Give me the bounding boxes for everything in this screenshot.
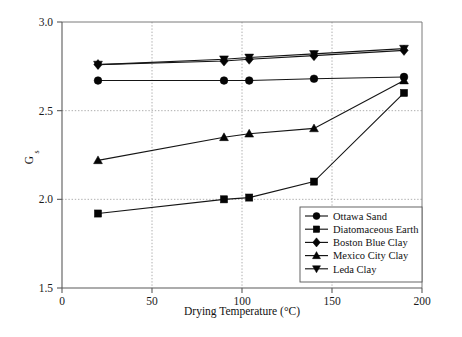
series-ottawa-sand: [94, 73, 408, 84]
y-tick-label-1.5: 1.5: [39, 282, 54, 294]
y-tick-label-2: 2.0: [39, 193, 54, 205]
chart-container: 1.52.02.53.0 050100150200 G s Drying Tem…: [0, 0, 462, 337]
legend-label: Leda Clay: [333, 264, 377, 275]
x-tick-label-150: 150: [323, 295, 341, 307]
series-diatomaceous-earth: [94, 89, 407, 217]
data-point-circle: [220, 77, 228, 85]
series-line: [98, 81, 404, 161]
legend-label: Mexico City Clay: [333, 250, 409, 261]
data-point-circle: [310, 75, 318, 83]
data-point-circle: [245, 77, 253, 85]
legend-label: Diatomaceous Earth: [333, 224, 419, 235]
x-axis-title-text: Drying Temperature (°C): [184, 305, 300, 318]
data-point-square: [220, 196, 227, 203]
legend-marker-circle: [313, 213, 320, 220]
y-axis-ticks: 1.52.02.53.0: [39, 16, 62, 294]
data-point-square: [310, 178, 317, 185]
gs-vs-drying-temperature-chart: 1.52.02.53.0 050100150200 G s Drying Tem…: [0, 0, 462, 337]
y-tick-label-2.5: 2.5: [39, 105, 54, 117]
data-point-square: [246, 194, 253, 201]
series-leda-clay: [94, 45, 409, 69]
y-axis-title-subscript: s: [32, 150, 41, 153]
chart-legend: Ottawa SandDiatomaceous EarthBoston Blue…: [300, 207, 422, 282]
data-point-triangle-up: [310, 124, 319, 132]
y-axis-title-text: G: [23, 156, 35, 164]
legend-label: Ottawa Sand: [333, 211, 388, 222]
x-tick-label-50: 50: [146, 295, 158, 307]
data-point-circle: [94, 77, 102, 85]
y-axis-title: G s: [23, 150, 41, 164]
data-series-group: [94, 45, 409, 217]
x-tick-label-200: 200: [413, 295, 431, 307]
y-tick-label-3: 3.0: [39, 16, 54, 28]
data-point-square: [94, 210, 101, 217]
legend-marker-square: [313, 226, 319, 232]
data-point-square: [400, 89, 407, 96]
legend-label: Boston Blue Clay: [333, 237, 408, 248]
x-tick-label-0: 0: [59, 295, 65, 307]
series-mexico-city-clay: [94, 76, 409, 164]
